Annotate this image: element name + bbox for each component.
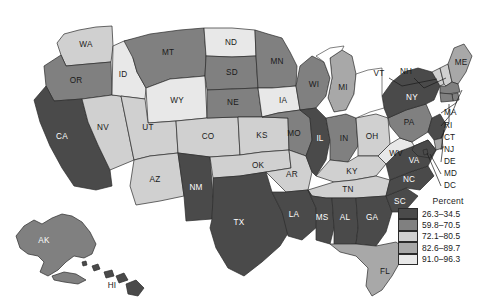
state-label-LA: LA [289, 210, 300, 219]
state-label-KS: KS [256, 131, 268, 140]
state-label-FL: FL [380, 267, 390, 276]
legend-label-4: 91.0–96.3 [422, 254, 460, 264]
state-label-TX: TX [234, 218, 245, 227]
state-label-WV: WV [389, 149, 403, 158]
legend-title: Percent [412, 196, 484, 206]
legend-swatch-3 [398, 242, 418, 254]
state-label-NC: NC [403, 175, 415, 184]
state-label-NV: NV [97, 123, 109, 132]
state-label-GA: GA [366, 213, 379, 222]
state-label-TN: TN [342, 185, 353, 194]
state-label-ME: ME [455, 58, 468, 67]
state-label-OH: OH [366, 132, 379, 141]
state-label-MO: MO [287, 129, 301, 138]
state-label-WA: WA [79, 40, 93, 49]
legend-row[interactable]: 82.6–89.7 [398, 242, 484, 253]
state-label-VA: VA [409, 156, 420, 165]
state-HI[interactable] [82, 261, 144, 296]
callout-label-DC: DC [444, 181, 456, 190]
legend-label-1: 59.8–70.5 [422, 220, 460, 230]
state-label-AK: AK [38, 236, 50, 245]
callout-label-NH: NH [400, 67, 412, 76]
state-label-MI: MI [338, 83, 348, 92]
callout-label-CT: CT [444, 133, 455, 142]
callout-label-VT: VT [374, 69, 385, 78]
state-label-WY: WY [170, 96, 184, 105]
state-label-MN: MN [270, 57, 283, 66]
state-label-NY: NY [406, 93, 418, 102]
state-label-OR: OR [70, 76, 83, 85]
state-label-CO: CO [202, 132, 215, 141]
state-label-IA: IA [279, 96, 287, 105]
callout-label-MD: MD [444, 169, 457, 178]
legend-row[interactable]: 59.8–70.5 [398, 219, 484, 230]
state-label-AZ: AZ [150, 175, 161, 184]
state-AK[interactable] [16, 214, 96, 284]
legend-label-2: 72.1–80.5 [422, 231, 460, 241]
state-label-WI: WI [309, 80, 319, 89]
callout-label-MA: MA [444, 108, 457, 117]
state-label-MT: MT [162, 48, 174, 57]
state-label-SD: SD [226, 68, 238, 77]
map-legend: Percent 26.3–34.5 59.8–70.5 72.1–80.5 82… [398, 196, 484, 265]
state-TX[interactable] [210, 172, 290, 276]
legend-label-0: 26.3–34.5 [422, 209, 460, 219]
state-label-MS: MS [316, 213, 329, 222]
legend-swatch-0 [398, 208, 418, 220]
state-label-UT: UT [142, 123, 153, 132]
state-CT[interactable] [440, 93, 453, 102]
state-label-ID: ID [119, 70, 128, 79]
state-label-OK: OK [252, 161, 265, 170]
legend-row[interactable]: 91.0–96.3 [398, 254, 484, 265]
state-label-IL: IL [316, 134, 323, 143]
legend-swatch-1 [398, 219, 418, 231]
state-label-HI: HI [108, 281, 117, 290]
state-label-NE: NE [227, 98, 239, 107]
callout-label-DE: DE [444, 157, 456, 166]
legend-swatch-2 [398, 231, 418, 243]
state-label-AR: AR [286, 170, 298, 179]
state-label-NM: NM [189, 183, 202, 192]
state-FL[interactable] [330, 242, 404, 296]
choropleth-map-figure: WA OR CA NV ID MT WY UT AZ CO NM ND SD N… [0, 0, 485, 308]
legend-row[interactable]: 72.1–80.5 [398, 231, 484, 242]
state-label-AL: AL [340, 213, 351, 222]
state-label-IN: IN [340, 134, 349, 143]
state-label-PA: PA [404, 118, 415, 127]
state-label-CA: CA [56, 132, 68, 141]
state-label-KY: KY [346, 167, 358, 176]
legend-label-3: 82.6–89.7 [422, 243, 460, 253]
legend-swatch-4 [398, 254, 418, 266]
state-label-ND: ND [225, 38, 237, 47]
legend-row[interactable]: 26.3–34.5 [398, 208, 484, 219]
callout-label-RI: RI [444, 121, 453, 130]
callout-label-NJ: NJ [444, 145, 454, 154]
